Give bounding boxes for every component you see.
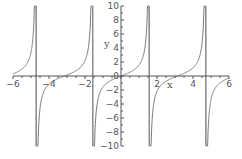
x-tick-label: −6 <box>6 79 20 89</box>
y-tick-label: 10 <box>108 1 120 11</box>
x-tick-label: −4 <box>42 79 56 89</box>
x-tick-label: 6 <box>226 79 232 89</box>
x-tick-label: 4 <box>190 79 196 89</box>
y-axis-label: y <box>103 38 110 49</box>
x-axis-label: x <box>167 79 173 90</box>
y-tick-label: 2 <box>113 57 119 67</box>
y-tick-label: 0 <box>113 71 119 81</box>
y-tick-label: −4 <box>106 99 120 109</box>
x-tick-label: 2 <box>154 79 160 89</box>
y-tick-label: −2 <box>106 85 119 95</box>
y-tick-label: 8 <box>113 15 119 25</box>
x-tick-label: −2 <box>78 79 91 89</box>
y-tick-label: 4 <box>113 43 119 53</box>
y-tick-label: −10 <box>100 141 119 151</box>
y-tick-label: 6 <box>113 29 119 39</box>
axes <box>13 6 229 146</box>
tan-plot: −6−4−2246−10−8−6−4−20246810 x y <box>0 0 242 159</box>
y-tick-label: −8 <box>106 127 120 137</box>
y-tick-label: −6 <box>106 113 120 123</box>
